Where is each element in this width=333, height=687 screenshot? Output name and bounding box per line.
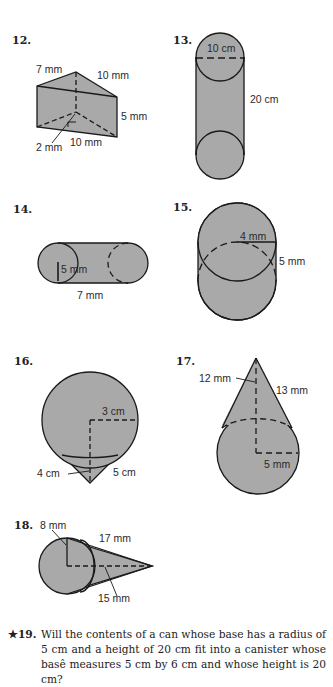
label-13-10cm: 10 cm — [207, 42, 236, 54]
figure-18-cone — [39, 530, 152, 596]
label-12-2mm: 2 mm — [36, 141, 62, 153]
problem-number-17: 17. — [176, 355, 195, 368]
label-12-5mm: 5 mm — [121, 110, 147, 122]
label-12-10mm-top: 10 mm — [97, 69, 129, 81]
question-19: ★19. Will the contents of a can whose ba… — [8, 627, 326, 687]
label-17-13mm: 13 mm — [276, 384, 308, 396]
label-17-12mm: 12 mm — [199, 372, 231, 384]
question-19-number: ★19. — [8, 627, 36, 642]
label-18-8mm: 8 mm — [40, 519, 66, 531]
label-12-10mm-bottom: 10 mm — [70, 136, 102, 148]
problem-number-18: 18. — [14, 519, 33, 532]
problem-number-13: 13. — [173, 34, 192, 47]
label-16-3cm: 3 cm — [102, 405, 125, 417]
label-14-5mm: 5 mm — [61, 263, 87, 275]
figure-14-cylinder — [38, 243, 148, 283]
label-15-5mm: 5 mm — [279, 255, 305, 267]
label-16-4cm: 4 cm — [37, 467, 60, 479]
label-14-7mm: 7 mm — [77, 289, 103, 301]
label-17-5mm: 5 mm — [264, 458, 290, 470]
label-13-20cm: 20 cm — [250, 93, 279, 105]
label-18-15mm: 15 mm — [98, 592, 130, 604]
figure-12-triangular-prism — [37, 72, 117, 143]
problem-number-12: 12. — [12, 34, 31, 47]
label-12-7mm: 7 mm — [36, 63, 62, 75]
figure-13-cylinder — [196, 33, 244, 179]
problem-number-16: 16. — [14, 355, 33, 368]
label-18-17mm: 17 mm — [99, 532, 131, 544]
figure-15-cylinder — [198, 203, 276, 320]
question-19-text: Will the contents of a can whose base ha… — [41, 627, 326, 687]
problem-number-15: 15. — [173, 201, 192, 214]
label-16-5cm: 5 cm — [113, 466, 136, 478]
problem-number-14: 14. — [13, 203, 32, 216]
label-15-4mm: 4 mm — [240, 230, 266, 242]
